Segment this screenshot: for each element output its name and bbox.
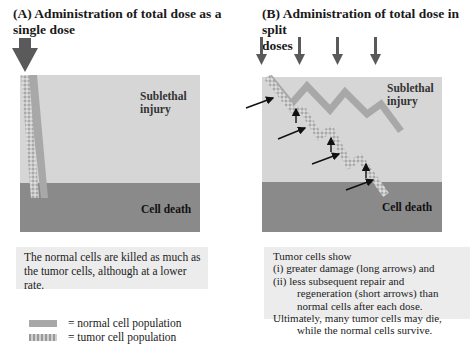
sublethal-text: Sublethal [140, 90, 187, 103]
legend-normal: = normal cell population [29, 316, 181, 330]
tumor-swatch-icon [29, 334, 57, 341]
panel-b-diagram [233, 0, 473, 240]
legend-tumor-text: = tumor cell population [68, 330, 176, 344]
panel-a-diagram [0, 0, 236, 240]
panel-a-death-label: Cell death [141, 203, 191, 215]
caption-line: the tumor cells, although at a lower [24, 264, 208, 278]
legend-tumor: = tumor cell population [29, 330, 181, 344]
normal-swatch-icon [29, 320, 57, 327]
sublethal-text: Sublethal [387, 82, 434, 95]
injury-text: injury [140, 103, 187, 116]
caption-line: normal cells after each dose. [273, 300, 470, 312]
caption-line: Tumor cells show [273, 250, 470, 262]
dose-arrow-icon [370, 37, 381, 65]
caption-line: regeneration (short arrows) than [273, 287, 470, 299]
caption-line: (i) greater damage (long arrows) and [273, 262, 470, 274]
caption-line: Ultimately, many tumor cells may die, [273, 312, 470, 324]
panel-a-sublethal-label: Sublethal injury [140, 90, 187, 116]
caption-line: while the normal cells survive. [273, 324, 470, 336]
dose-arrow-icon [12, 38, 38, 72]
panel-b-caption: Tumor cells show (i) greater damage (lon… [264, 247, 470, 319]
caption-line: The normal cells are killed as much as [24, 250, 208, 264]
dose-arrow-icon [256, 37, 267, 65]
caption-line: (ii) less subsequent repair and [273, 275, 470, 287]
dose-arrow-icon [332, 37, 343, 65]
legend-normal-text: = normal cell population [68, 316, 181, 330]
caption-line: rate. [24, 278, 208, 292]
injury-text: injury [387, 95, 434, 108]
dose-arrows [256, 37, 381, 65]
dose-arrow-icon [294, 37, 305, 65]
legend: = normal cell population = tumor cell po… [29, 316, 181, 344]
panel-a-caption: The normal cells are killed as much as t… [16, 247, 208, 289]
panel-b-sublethal-label: Sublethal injury [387, 82, 434, 108]
panel-b-death-label: Cell death [382, 201, 432, 213]
